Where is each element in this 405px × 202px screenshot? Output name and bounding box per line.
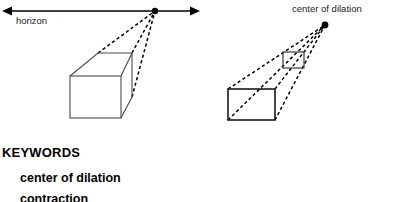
dilation-ray-top-left: [228, 25, 325, 89]
dilation-ray-bottom-left: [228, 25, 325, 120]
horizon-left-arrow-icon: [2, 7, 12, 16]
horizon-right-arrow-icon: [190, 7, 200, 16]
dilation-preimage-rectangle: [228, 89, 275, 120]
center-of-dilation-label: center of dilation: [292, 4, 362, 14]
figure-page: horizon center of dilation KEYWORDS cent…: [0, 0, 405, 202]
keyword-item: contraction: [20, 193, 88, 202]
keywords-heading: KEYWORDS: [2, 146, 80, 159]
dilation-ray-bottom-right: [275, 25, 325, 120]
perspective-ray-top-left: [98, 11, 155, 53]
perspective-ray-top-right: [132, 11, 155, 53]
dilation-diagram: [228, 22, 328, 120]
perspective-ray-bottom-right: [132, 11, 155, 97]
prism-top-face: [70, 53, 132, 76]
prism-front-face: [70, 76, 121, 118]
horizon-label: horizon: [16, 16, 47, 26]
center-of-dilation-dot: [322, 22, 329, 29]
keyword-item: center of dilation: [20, 172, 121, 185]
prism-edge-bottom-right-receding: [121, 97, 132, 118]
dilation-rays: [228, 25, 325, 120]
rectangular-prism: [70, 53, 132, 118]
